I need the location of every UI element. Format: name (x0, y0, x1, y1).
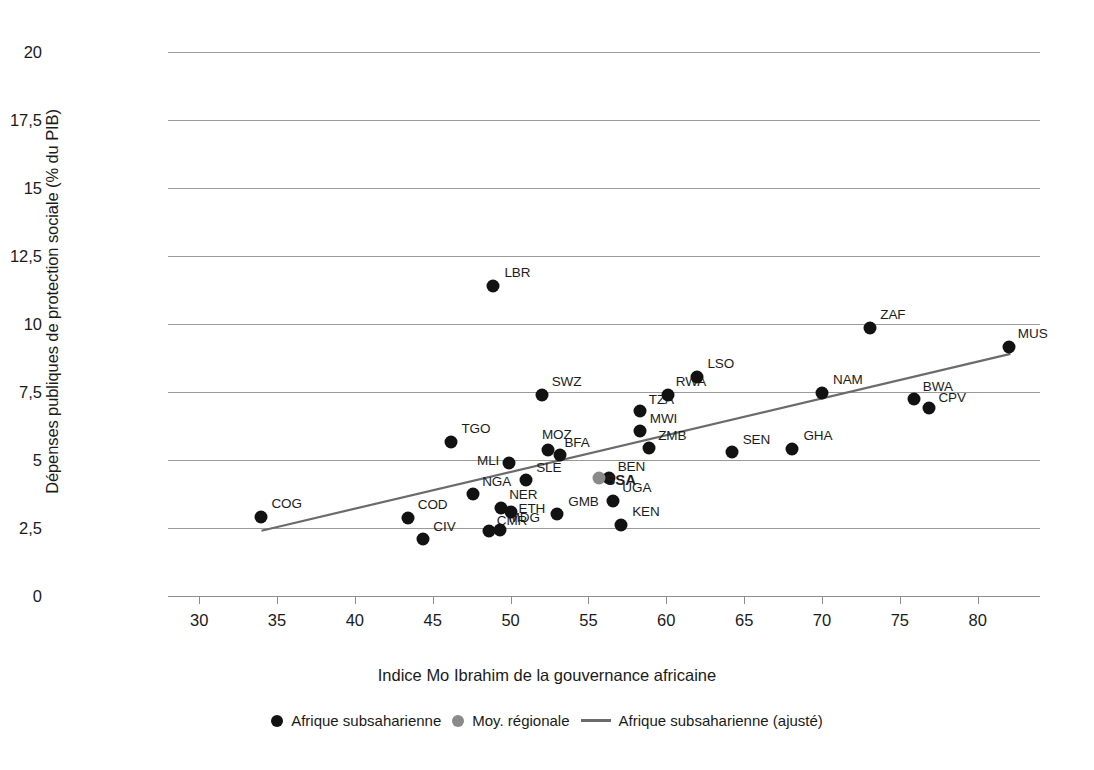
legend-item[interactable]: Afrique subsaharienne (271, 712, 441, 729)
x-tick-mark (744, 597, 745, 604)
point-label: TGO (461, 421, 490, 436)
plot-area: COGCODCIVTGONGACMRMDGLBRMLINERETHSLESWZM… (168, 52, 1040, 596)
legend-line-swatch (581, 719, 611, 722)
x-tick-label: 65 (735, 611, 753, 630)
x-axis-title: Indice Mo Ibrahim de la gouvernance afri… (0, 666, 1094, 685)
data-point[interactable] (923, 402, 936, 415)
regional-average-point[interactable] (593, 471, 606, 484)
scatter-chart: Dépenses publiques de protection sociale… (0, 0, 1094, 770)
point-label: MUS (1018, 326, 1048, 341)
legend-grey-dot-swatch (452, 715, 464, 727)
x-tick-label: 50 (501, 611, 519, 630)
y-tick-label: 17,5 (10, 111, 42, 130)
point-label: BFA (564, 434, 589, 449)
x-tick-label: 40 (346, 611, 364, 630)
legend-label: Afrique subsaharienne (291, 712, 441, 729)
point-label: LSO (707, 356, 734, 371)
legend-item[interactable]: Afrique subsaharienne (ajusté) (581, 712, 823, 729)
point-label: MLI (477, 452, 499, 467)
x-tick-label: 45 (424, 611, 442, 630)
point-label: GHA (803, 428, 832, 443)
point-label: MWI (650, 411, 677, 426)
point-label: NAM (833, 372, 863, 387)
data-point[interactable] (907, 392, 920, 405)
data-point[interactable] (633, 425, 646, 438)
data-point[interactable] (864, 322, 877, 335)
point-label: COD (418, 497, 448, 512)
data-point[interactable] (725, 445, 738, 458)
x-tick-mark (511, 597, 512, 604)
data-point[interactable] (255, 511, 268, 524)
y-tick-label: 7,5 (19, 383, 42, 402)
data-point[interactable] (816, 387, 829, 400)
data-point[interactable] (467, 488, 480, 501)
y-tick-label: 12,5 (10, 247, 42, 266)
data-point[interactable] (493, 524, 506, 537)
data-point[interactable] (535, 388, 548, 401)
y-axis-title: Dépenses publiques de protection sociale… (43, 22, 62, 582)
y-tick-label: 15 (24, 179, 42, 198)
data-point[interactable] (401, 512, 414, 525)
data-point[interactable] (487, 279, 500, 292)
data-point[interactable] (661, 388, 674, 401)
y-tick-label: 10 (24, 315, 42, 334)
point-label: ZAF (880, 307, 905, 322)
data-point[interactable] (615, 519, 628, 532)
data-point[interactable] (607, 494, 620, 507)
point-label: SLE (536, 460, 561, 475)
data-point[interactable] (520, 474, 533, 487)
legend-label: Moy. régionale (472, 712, 569, 729)
point-label: CPV (938, 390, 965, 405)
x-tick-mark (277, 597, 278, 604)
point-label: LBR (504, 264, 530, 279)
data-point[interactable] (786, 443, 799, 456)
point-label: COG (271, 496, 301, 511)
x-tick-mark (822, 597, 823, 604)
x-tick-mark (433, 597, 434, 604)
chart-legend: Afrique subsaharienneMoy. régionaleAfriq… (0, 712, 1094, 729)
y-tick-label: 2,5 (19, 519, 42, 538)
x-tick-mark (666, 597, 667, 604)
data-point[interactable] (633, 405, 646, 418)
data-point[interactable] (691, 371, 704, 384)
point-label: NGA (482, 474, 511, 489)
point-label: CIV (433, 518, 455, 533)
data-point[interactable] (551, 508, 564, 521)
point-label: KEN (632, 504, 659, 519)
y-tick-label: 0 (33, 587, 42, 606)
legend-label: Afrique subsaharienne (ajusté) (619, 712, 823, 729)
data-point[interactable] (554, 448, 567, 461)
x-tick-mark (355, 597, 356, 604)
data-point[interactable] (643, 441, 656, 454)
legend-black-dot-swatch (271, 715, 283, 727)
point-label: ETH (519, 500, 546, 515)
y-tick-label: 5 (33, 451, 42, 470)
point-label: NER (509, 486, 537, 501)
x-tick-label: 70 (813, 611, 831, 630)
point-label: SSA (605, 470, 636, 487)
point-label: SWZ (552, 373, 582, 388)
y-tick-label: 20 (24, 43, 42, 62)
x-tick-mark (588, 597, 589, 604)
data-point[interactable] (504, 505, 517, 518)
x-tick-label: 30 (190, 611, 208, 630)
data-point[interactable] (503, 456, 516, 469)
data-point[interactable] (541, 444, 554, 457)
data-point[interactable] (1002, 341, 1015, 354)
point-label: ZMB (658, 427, 686, 442)
x-axis-tick-labels: 3035404550556065707580 (168, 597, 1040, 637)
data-point[interactable] (445, 436, 458, 449)
point-label: SEN (743, 431, 770, 446)
x-tick-label: 60 (657, 611, 675, 630)
x-tick-mark (199, 597, 200, 604)
x-tick-label: 80 (969, 611, 987, 630)
regression-line (168, 52, 1040, 596)
x-tick-label: 75 (891, 611, 909, 630)
point-label: GMB (568, 494, 598, 509)
legend-item[interactable]: Moy. régionale (452, 712, 569, 729)
x-tick-label: 35 (268, 611, 286, 630)
x-tick-label: 55 (579, 611, 597, 630)
data-point[interactable] (417, 532, 430, 545)
x-tick-mark (978, 597, 979, 604)
x-tick-mark (900, 597, 901, 604)
